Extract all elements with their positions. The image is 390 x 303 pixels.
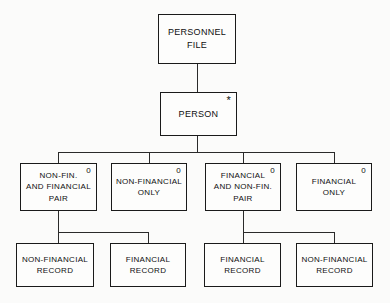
node-non-financial-record-right-line2: RECORD bbox=[316, 265, 352, 276]
node-financial-record-left[interactable]: FINANCIAL RECORD bbox=[110, 243, 186, 287]
edge-l3-3-stem bbox=[243, 211, 244, 232]
node-nonfin-and-financial-pair[interactable]: 0 NON-FIN. AND FINANCIAL PAIR bbox=[20, 163, 97, 211]
node-non-financial-record-left-line2: RECORD bbox=[37, 265, 73, 276]
node-non-financial-only-marker-zero: 0 bbox=[176, 167, 181, 175]
node-financial-and-nonfin-pair-line1: FINANCIAL bbox=[221, 170, 266, 181]
edge-drop-l4-1 bbox=[58, 232, 59, 243]
node-personnel-file[interactable]: PERSONNEL FILE bbox=[158, 14, 236, 64]
node-financial-record-left-line1: FINANCIAL bbox=[126, 254, 171, 265]
edge-drop-l3-1 bbox=[58, 152, 59, 163]
edge-drop-l3-3 bbox=[243, 152, 244, 163]
edge-level3-bus bbox=[58, 152, 334, 153]
node-person-line1: PERSON bbox=[179, 108, 219, 121]
node-financial-record-right[interactable]: FINANCIAL RECORD bbox=[204, 243, 281, 287]
node-financial-and-nonfin-pair[interactable]: 0 FINANCIAL AND NON-FIN. PAIR bbox=[205, 163, 281, 211]
node-financial-only[interactable]: 0 FINANCIAL ONLY bbox=[296, 163, 372, 211]
node-personnel-file-line2: FILE bbox=[187, 39, 207, 52]
node-financial-only-line2: ONLY bbox=[323, 187, 345, 198]
node-non-financial-only[interactable]: 0 NON-FINANCIAL ONLY bbox=[111, 163, 187, 211]
edge-drop-l4-2 bbox=[148, 232, 149, 243]
node-financial-only-line1: FINANCIAL bbox=[312, 176, 357, 187]
node-nonfin-and-financial-pair-line2: AND FINANCIAL bbox=[26, 181, 91, 192]
edge-drop-l3-2 bbox=[149, 152, 150, 163]
edge-l3-3-bus bbox=[243, 232, 335, 233]
node-non-financial-record-right-line1: NON-FINANCIAL bbox=[301, 254, 367, 265]
node-financial-record-right-line2: RECORD bbox=[224, 265, 260, 276]
node-nonfin-and-financial-pair-line1: NON-FIN. bbox=[40, 170, 78, 181]
node-personnel-file-line1: PERSONNEL bbox=[168, 26, 226, 39]
edge-drop-l4-3 bbox=[243, 232, 244, 243]
node-financial-record-right-line1: FINANCIAL bbox=[220, 254, 265, 265]
node-nonfin-and-financial-pair-line3: PAIR bbox=[49, 193, 68, 204]
node-non-financial-only-line1: NON-FINANCIAL bbox=[116, 176, 182, 187]
edge-root-to-person bbox=[197, 64, 198, 92]
node-non-financial-record-left-line1: NON-FINANCIAL bbox=[22, 254, 88, 265]
node-financial-and-nonfin-pair-line3: PAIR bbox=[233, 193, 252, 204]
node-financial-only-marker-zero: 0 bbox=[361, 167, 366, 175]
edge-l3-1-stem bbox=[58, 211, 59, 232]
node-financial-and-nonfin-pair-line2: AND NON-FIN. bbox=[214, 181, 272, 192]
edge-drop-l3-4 bbox=[334, 152, 335, 163]
node-non-financial-only-line2: ONLY bbox=[138, 187, 160, 198]
node-non-financial-record-left[interactable]: NON-FINANCIAL RECORD bbox=[16, 243, 94, 287]
node-person[interactable]: * PERSON bbox=[160, 92, 237, 136]
node-financial-and-nonfin-pair-marker-zero: 0 bbox=[270, 167, 275, 175]
node-nonfin-and-financial-pair-marker-zero: 0 bbox=[86, 167, 91, 175]
edge-l3-1-bus bbox=[58, 232, 149, 233]
node-non-financial-record-right[interactable]: NON-FINANCIAL RECORD bbox=[296, 243, 373, 287]
node-person-marker-asterisk: * bbox=[226, 95, 231, 106]
diagram-canvas: PERSONNEL FILE * PERSON 0 NON-FIN. AND F… bbox=[0, 0, 390, 303]
edge-person-stem bbox=[197, 136, 198, 152]
node-financial-record-left-line2: RECORD bbox=[130, 265, 166, 276]
edge-drop-l4-4 bbox=[334, 232, 335, 243]
